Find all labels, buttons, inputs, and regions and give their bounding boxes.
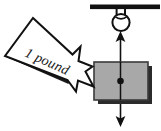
suspended-block (94, 62, 152, 104)
hook-ring-circle (112, 14, 129, 31)
ceiling-hook-ring (112, 8, 129, 31)
applied-force-block-arrow: 1 pound (5, 18, 94, 92)
force-diagram-figure: 1 pound (0, 0, 161, 131)
block-center-of-mass-dot (117, 78, 124, 85)
force-diagram-canvas: 1 pound (0, 0, 161, 131)
hook-ring-inner-arc (115, 17, 127, 19)
